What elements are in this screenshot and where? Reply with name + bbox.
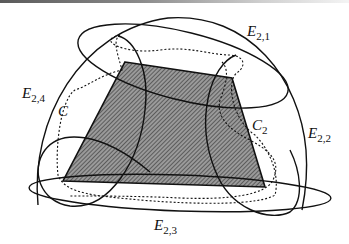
label-c2: C2 [252, 117, 268, 136]
label-c: C [58, 103, 69, 119]
diagram-canvas: E2,1 E2,4 C C2 E2,2 E2,3 [0, 0, 349, 244]
label-e21: E2,1 [246, 23, 270, 42]
label-e22: E2,2 [307, 125, 331, 144]
label-e23: E2,3 [153, 217, 177, 236]
label-e24: E2,4 [21, 85, 45, 104]
shaded-trapezoid-region [63, 62, 265, 187]
